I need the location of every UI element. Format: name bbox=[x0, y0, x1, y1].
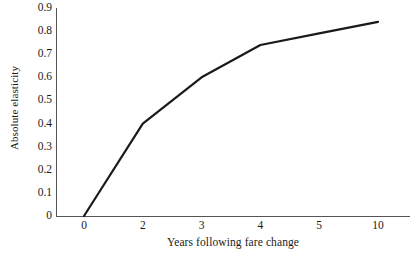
y-axis-title-text: Absolute elasticity bbox=[8, 66, 20, 150]
y-tick-label: 0.4 bbox=[38, 118, 52, 130]
series-polyline bbox=[84, 22, 378, 216]
y-tick-label: 0 bbox=[46, 210, 52, 222]
x-axis-title: Years following fare change bbox=[56, 236, 410, 248]
x-tick-label: 3 bbox=[199, 219, 205, 233]
y-tick-label: 0.9 bbox=[38, 2, 52, 14]
series-absolute-elasticity bbox=[56, 8, 410, 216]
x-tick-label: 4 bbox=[258, 219, 264, 233]
y-tick-label: 0.5 bbox=[38, 95, 52, 107]
y-axis-title: Absolute elasticity bbox=[6, 0, 22, 216]
x-axis-tick-labels: 0234510 bbox=[56, 219, 410, 235]
x-tick-label: 5 bbox=[316, 219, 322, 233]
y-axis-tick-labels: 00.10.20.30.40.50.60.70.80.9 bbox=[22, 0, 54, 228]
y-tick-label: 0.1 bbox=[38, 187, 52, 199]
x-axis-line bbox=[56, 216, 410, 217]
x-tick-label: 10 bbox=[372, 219, 384, 233]
y-tick-label: 0.8 bbox=[38, 25, 52, 37]
x-tick-label: 2 bbox=[140, 219, 146, 233]
y-tick-label: 0.6 bbox=[38, 72, 52, 84]
x-tick-label: 0 bbox=[81, 219, 87, 233]
y-tick-label: 0.7 bbox=[38, 48, 52, 60]
elasticity-line-chart: Absolute elasticity 00.10.20.30.40.50.60… bbox=[0, 0, 420, 259]
y-tick-label: 0.3 bbox=[38, 141, 52, 153]
y-tick-label: 0.2 bbox=[38, 164, 52, 176]
plot-area bbox=[56, 8, 410, 216]
